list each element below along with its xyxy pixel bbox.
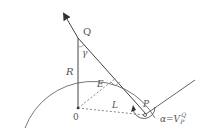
origin-point (77, 107, 80, 110)
label-alpha-sub: P (179, 118, 185, 125)
large-circle-arc (25, 81, 155, 128)
label-E: E (96, 79, 104, 89)
label-Q: Q (83, 26, 91, 37)
label-alpha-sup: Q (181, 111, 186, 118)
label-alpha: α=VPQ (160, 111, 186, 125)
angle-gamma-arc (78, 45, 84, 47)
line-from-P (146, 80, 195, 114)
geometry-diagram: Q R γ E 0 L P α=VPQ (0, 0, 212, 134)
label-O: 0 (73, 112, 79, 122)
label-R: R (65, 66, 74, 77)
label-P: P (142, 99, 150, 109)
label-gamma: γ (82, 48, 88, 58)
arrow-from-Q (64, 14, 78, 38)
angle-arrow-icon (131, 105, 136, 112)
label-L: L (111, 100, 118, 110)
label-alpha-main: α=V (160, 114, 182, 124)
